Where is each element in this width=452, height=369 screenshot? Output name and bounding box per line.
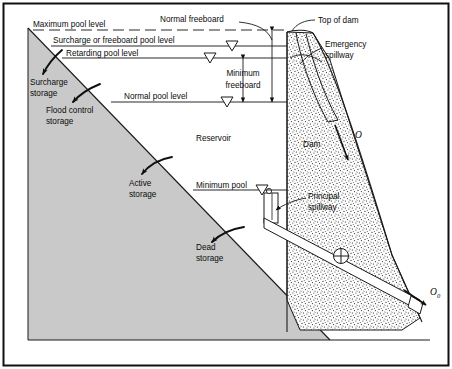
top-of-dam-label: Top of dam <box>318 16 359 25</box>
maximum-pool-level-label: Maximum pool level <box>33 20 106 29</box>
normal-pool-level-label: Normal pool level <box>124 92 187 101</box>
top-of-dam-leader <box>292 20 315 31</box>
flood-control-storage-label-line1: Flood control <box>46 106 94 115</box>
surcharge-pool-level-label: Surcharge or freeboard pool level <box>53 36 175 45</box>
dam-label: Dam <box>303 140 320 149</box>
retarding-pool-level-label: Retarding pool level <box>66 49 139 58</box>
reservoir-label: Reservoir <box>196 134 231 143</box>
active-storage-label-line2: storage <box>129 190 157 199</box>
surcharge-storage-label-line1: Surcharge <box>30 78 68 87</box>
emergency-spillway-label-line1: Emergency <box>325 40 367 49</box>
riser-inlet-cap <box>266 188 271 193</box>
normal-freeboard-label: Normal freeboard <box>160 15 224 24</box>
principal-outflow-symbol: O <box>430 287 437 297</box>
minimum-pool-level-label: Minimum pool <box>196 181 247 190</box>
minimum-freeboard-label-line2: freeboard <box>225 81 260 90</box>
diagram-canvas: Maximum pool level Surcharge or freeboar… <box>0 0 452 369</box>
reservoir-dam-diagram: Maximum pool level Surcharge or freeboar… <box>0 0 452 369</box>
dead-storage-label-line2: storage <box>196 254 224 263</box>
normal-freeboard-leader <box>239 22 272 40</box>
principal-outflow-subscript: 0 <box>437 292 441 299</box>
active-storage-label-line1: Active <box>129 179 152 188</box>
principal-spillway-label-line1: Principal <box>308 192 340 201</box>
surcharge-storage-label-line2: storage <box>30 89 58 98</box>
dead-storage-label-line1: Dead <box>196 243 216 252</box>
principal-spillway-label-line2: spillway <box>308 203 338 212</box>
flood-control-storage-label-line2: storage <box>46 117 74 126</box>
dam-body <box>287 32 420 330</box>
emergency-outflow-symbol: O <box>355 130 362 140</box>
emergency-spillway-label-line2: spillway <box>325 51 355 60</box>
principal-spillway-riser <box>264 193 278 223</box>
minimum-freeboard-label-line1: Minimum <box>226 69 259 78</box>
